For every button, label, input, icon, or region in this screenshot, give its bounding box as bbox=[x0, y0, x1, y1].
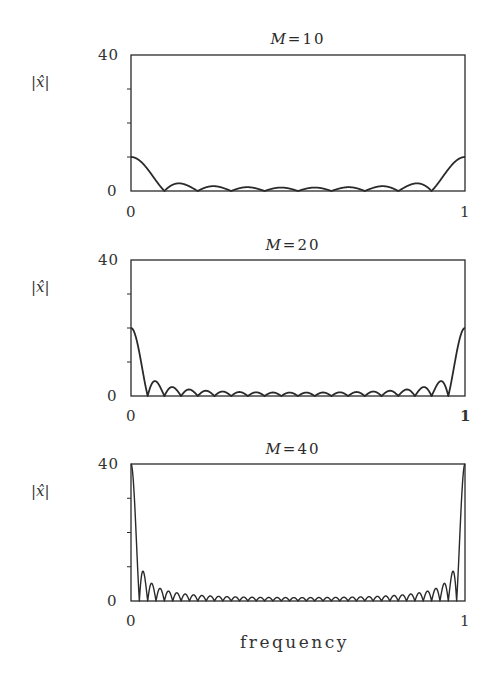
dirichlet-curve-m10 bbox=[131, 157, 465, 191]
dirichlet-curve-m20 bbox=[131, 328, 465, 396]
dirichlet-curve-m40 bbox=[131, 464, 465, 601]
plot-frame bbox=[131, 55, 465, 191]
plot-canvas bbox=[0, 0, 489, 684]
plot-frames bbox=[127, 55, 465, 601]
plot-frame bbox=[131, 464, 465, 601]
plot-curves bbox=[131, 157, 465, 601]
plot-frame bbox=[131, 260, 465, 396]
